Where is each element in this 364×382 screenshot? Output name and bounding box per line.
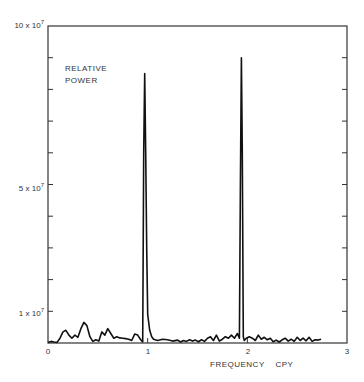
y-tick-label-top: 10 x 107 (4, 19, 44, 30)
y-tick-label-low: 1 x 107 (4, 307, 44, 318)
plot-frame (48, 26, 347, 343)
x-tick-1: 1 (142, 347, 154, 356)
y-axis-ticks (48, 58, 347, 312)
x-tick-2: 2 (242, 347, 254, 356)
spectrum-chart (0, 0, 364, 382)
x-tick-3: 3 (341, 347, 353, 356)
x-axis-label: FREQUENCY CPY (210, 360, 293, 369)
power-spectrum-line (48, 58, 321, 343)
x-tick-0: 0 (42, 347, 54, 356)
annotation-relative: RELATIVE (65, 64, 107, 73)
annotation-power: POWER (65, 76, 98, 85)
y-tick-label-mid: 5 x 107 (4, 182, 44, 193)
